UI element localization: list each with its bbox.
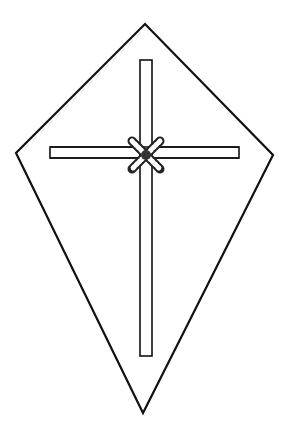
vertical-stick	[140, 60, 152, 356]
kite-figure	[0, 0, 293, 435]
kite-diagram	[0, 0, 293, 435]
